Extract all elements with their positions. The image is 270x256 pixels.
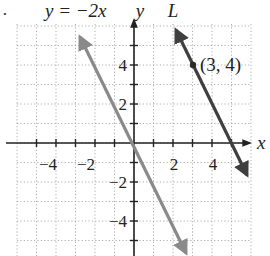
- line-L-label: L: [167, 0, 179, 21]
- y-tick-label: −4: [109, 212, 128, 231]
- y-tick-label: 4: [119, 56, 128, 75]
- x-tick-label: 4: [209, 155, 218, 174]
- x-tick-label: 2: [170, 155, 179, 174]
- x-tick-labels: −4 −2 2 4: [39, 155, 218, 174]
- equation-label: y = −2x: [43, 0, 107, 21]
- point-label: (3, 4): [200, 54, 241, 76]
- y-tick-label: −2: [109, 173, 127, 192]
- x-tick-label: −4: [39, 155, 58, 174]
- coordinate-plane: · −4 −2 2 4 4 2 −2 −4 (3, 4) y = −2x y L…: [0, 0, 270, 256]
- y-tick-label: 2: [119, 95, 128, 114]
- problem-marker: ·: [2, 5, 8, 24]
- point-3-4: [190, 62, 196, 68]
- line-L: [176, 30, 247, 175]
- x-tick-label: −2: [77, 155, 95, 174]
- x-axis-label: x: [256, 132, 266, 153]
- y-axis-label: y: [134, 0, 145, 21]
